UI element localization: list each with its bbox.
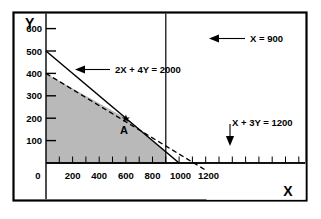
x-tick-label-800: 800 [145,170,161,181]
x-tick-label-400: 400 [91,170,107,181]
y-tick-label-200: 200 [26,113,42,124]
y-axis-title: Y [25,15,35,31]
vertex-label-a: A [120,124,128,136]
x-tick-label-600: 600 [118,170,134,181]
x-tick-label-1200: 1200 [198,170,219,181]
x-tick-label-1000: 1000 [170,170,191,181]
y-tick-label-300: 300 [26,90,42,101]
y-tick-label-400: 400 [26,68,42,79]
annotation-label-x-3y: X + 3Y = 1200 [232,117,293,128]
x-tick-label-200: 200 [65,170,81,181]
chart-figure: 600 500 400 300 200 100 0 200 400 600 80… [0,0,321,219]
annotation-label-2x-4y: 2X + 4Y = 2000 [115,64,181,75]
y-tick-label-100: 100 [26,135,42,146]
y-tick-label-500: 500 [26,46,42,57]
x-axis-title: X [283,183,293,199]
annotation-label-x-900: X = 900 [250,33,283,44]
x-tick-label-0: 0 [35,170,40,181]
linear-programming-chart: 600 500 400 300 200 100 0 200 400 600 80… [0,0,321,219]
